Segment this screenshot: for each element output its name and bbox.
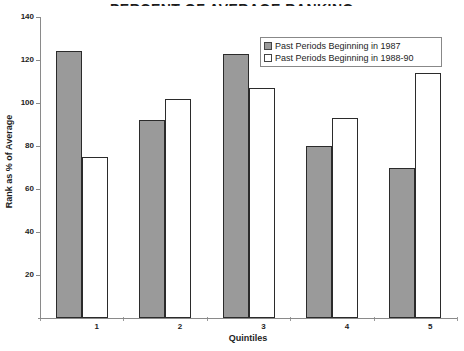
bar-1988-90 [82, 157, 108, 318]
bar-1988-90 [415, 73, 441, 318]
bar-1988-90 [165, 99, 191, 318]
y-tick-label: 100 [12, 99, 34, 107]
chart-title-cropped: PERCENT OF AVERAGE RANKING [0, 0, 464, 6]
bar-1987 [306, 146, 332, 318]
x-category-label: 5 [420, 322, 440, 331]
y-tick-label: 60 [12, 185, 34, 193]
legend-swatch-open-icon [264, 54, 272, 62]
y-tick-label: 20 [12, 271, 34, 279]
x-category-label: 4 [337, 322, 357, 331]
bar-1987 [139, 120, 165, 318]
x-category-label: 2 [170, 322, 190, 331]
legend-label: Past Periods Beginning in 1988-90 [275, 52, 414, 64]
x-axis-line [38, 318, 457, 319]
bar-chart-figure: PERCENT OF AVERAGE RANKING Rank as % of … [0, 0, 464, 351]
x-category-label: 1 [87, 322, 107, 331]
legend: Past Periods Beginning in 1987 Past Peri… [260, 37, 442, 67]
legend-item-1987: Past Periods Beginning in 1987 [264, 40, 438, 52]
legend-item-1988-90: Past Periods Beginning in 1988-90 [264, 52, 438, 64]
legend-label: Past Periods Beginning in 1987 [275, 40, 401, 52]
y-tick-label: 40 [12, 228, 34, 236]
x-category-label: 3 [254, 322, 274, 331]
y-tick-label: 120 [12, 56, 34, 64]
bar-1988-90 [332, 118, 358, 318]
y-axis-line [40, 17, 41, 318]
x-axis-title: Quintiles [208, 333, 288, 343]
x-tick-mark [457, 317, 458, 321]
y-tick-label: 80 [12, 142, 34, 150]
bar-1987 [56, 51, 82, 318]
bar-1988-90 [249, 88, 275, 318]
chart-title: PERCENT OF AVERAGE RANKING [110, 1, 354, 6]
bar-1987 [389, 168, 415, 319]
y-tick-label: 140 [12, 13, 34, 21]
bar-1987 [223, 54, 249, 318]
legend-swatch-filled-icon [264, 42, 272, 50]
